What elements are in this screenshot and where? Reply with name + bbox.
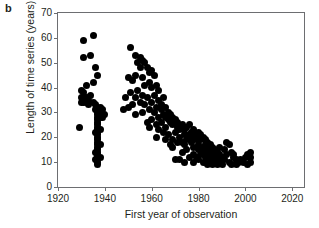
y-axis-tick-label: 20	[41, 132, 52, 142]
x-axis-tick-label: 1920	[47, 194, 69, 204]
scatter-point	[202, 149, 209, 156]
scatter-point	[101, 111, 108, 118]
y-axis-tick	[54, 112, 58, 113]
y-axis-tick	[54, 88, 58, 89]
x-axis-tick-label: 2000	[234, 194, 256, 204]
scatter-point	[137, 64, 144, 71]
scatter-point	[160, 129, 167, 136]
scatter-point	[139, 74, 146, 81]
scatter-point	[132, 111, 139, 118]
x-axis-tick	[245, 187, 246, 191]
scatter-point	[94, 72, 101, 79]
y-axis-tick-label: 10	[41, 157, 52, 167]
scatter-point	[90, 79, 97, 86]
x-axis-tick-label: 1960	[141, 194, 163, 204]
scatter-point	[169, 144, 176, 151]
scatter-point	[97, 126, 104, 133]
y-axis-tick	[54, 162, 58, 163]
scatter-point	[87, 52, 94, 59]
y-axis-tick-label: 50	[41, 58, 52, 68]
x-axis-tick-label: 1980	[187, 194, 209, 204]
scatter-point	[160, 94, 167, 101]
scatter-point	[129, 77, 136, 84]
scatter-point	[151, 72, 158, 79]
y-axis-tick-label: 70	[41, 8, 52, 18]
scatter-point	[127, 44, 134, 51]
y-axis-tick-label: 40	[41, 83, 52, 93]
panel-label: b	[5, 3, 12, 14]
scatter-point	[80, 54, 87, 61]
scatter-point	[80, 37, 87, 44]
figure-panel-b: b Length of time series (years) 01020304…	[0, 0, 319, 228]
scatter-point	[97, 154, 104, 161]
scatter-point	[92, 64, 99, 71]
x-axis-tick	[292, 187, 293, 191]
y-axis-title: Length of time series (years)	[25, 0, 36, 142]
scatter-point	[139, 109, 146, 116]
scatter-point	[76, 124, 83, 131]
scatter-point	[120, 106, 127, 113]
scatter-point	[216, 144, 223, 151]
x-axis-tick-label: 1940	[94, 194, 116, 204]
y-axis-tick-label: 0	[46, 182, 52, 192]
x-axis-tick	[199, 187, 200, 191]
scatter-point	[90, 32, 97, 39]
x-axis-tick	[105, 187, 106, 191]
y-axis-tick-label: 60	[41, 33, 52, 43]
x-axis-tick	[152, 187, 153, 191]
scatter-point	[228, 161, 235, 168]
x-axis-title: First year of observation	[57, 209, 305, 220]
scatter-point	[223, 151, 230, 158]
scatter-point	[97, 141, 104, 148]
scatter-point	[78, 99, 85, 106]
y-axis-tick	[54, 63, 58, 64]
y-axis-tick	[54, 137, 58, 138]
x-axis-tick-label: 2020	[281, 194, 303, 204]
scatter-point	[190, 159, 197, 166]
scatter-point	[122, 94, 129, 101]
scatter-point	[141, 82, 148, 89]
y-axis-tick-label: 30	[41, 107, 52, 117]
y-axis-tick	[54, 13, 58, 14]
scatter-point	[146, 124, 153, 131]
y-axis-tick	[54, 38, 58, 39]
plot-area: 010203040506070192019401960198020002020	[57, 12, 305, 188]
scatter-point	[179, 149, 186, 156]
scatter-points-layer	[58, 13, 304, 187]
scatter-point	[244, 161, 251, 168]
x-axis-tick	[58, 187, 59, 191]
scatter-point	[153, 134, 160, 141]
